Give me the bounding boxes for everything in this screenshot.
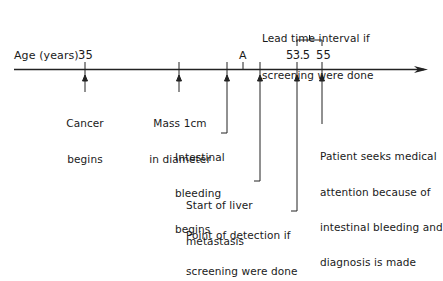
- event-line: Intestinal: [175, 151, 225, 163]
- event-diagnosis: Patient seeks medical attention because …: [320, 128, 443, 280]
- event-cancer-begins: Cancer begins: [60, 93, 110, 177]
- arrowhead-up-icon: [225, 75, 230, 81]
- leader-liver: [254, 76, 260, 181]
- event-line: Cancer: [60, 117, 110, 129]
- event-line: Point of detection if: [186, 229, 298, 241]
- age-35-label: 35: [78, 49, 93, 61]
- event-line: screening were done: [186, 265, 298, 277]
- leader-bleeding: [221, 76, 227, 133]
- arrowhead-up-icon: [177, 75, 182, 81]
- event-detection-if-screening: Point of detection if screening were don…: [186, 205, 298, 281]
- lead-time-caption: Lead time interval if screening were don…: [262, 8, 358, 93]
- event-line: diagnosis is made: [320, 257, 443, 269]
- arrowhead-up-icon: [83, 75, 88, 81]
- point-a-label: A: [239, 50, 247, 62]
- lead-time-line1: Lead time interval if: [262, 32, 358, 44]
- leader-detection: [291, 76, 297, 211]
- axis-label: Age (years): [14, 50, 79, 62]
- event-line: begins: [60, 153, 110, 165]
- lead-time-line2: screening were done: [262, 69, 358, 81]
- event-line: attention because of: [320, 187, 443, 199]
- event-line: intestinal bleeding and: [320, 222, 443, 234]
- event-line: Patient seeks medical: [320, 151, 443, 163]
